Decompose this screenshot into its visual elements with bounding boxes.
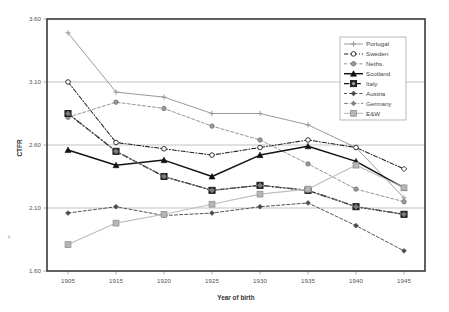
data-point-marker [161, 211, 167, 217]
data-point-marker [209, 201, 215, 207]
data-point-marker [210, 153, 215, 158]
data-point-marker [65, 242, 71, 248]
y-tick-label: 1.60 [29, 267, 42, 274]
data-point-marker [351, 110, 357, 116]
y-axis-title: CTFR [16, 139, 23, 156]
legend-label: E&W [366, 110, 380, 117]
data-point-marker [162, 106, 166, 110]
x-tick-label: 1925 [205, 277, 219, 284]
data-point-marker-inner [352, 83, 354, 85]
y-tick-label: 2.60 [29, 141, 42, 148]
data-point-marker [351, 52, 356, 57]
legend-label: Scotland [366, 70, 391, 77]
chart-container: 3.603.102.602.101.60 1905191519201925193… [0, 0, 449, 312]
legend-label: Italy [366, 80, 378, 87]
data-point-marker [114, 140, 119, 145]
data-point-marker [353, 162, 359, 168]
x-tick-label: 1905 [61, 277, 75, 284]
data-point-marker [354, 145, 359, 150]
legend-label: Austria [366, 90, 386, 97]
x-tick-label: 1920 [157, 277, 171, 284]
x-axis-title: Year of birth [217, 294, 254, 301]
data-point-marker [162, 146, 167, 151]
data-point-marker [258, 138, 262, 142]
legend-label: Portugal [366, 40, 389, 47]
data-point-marker [306, 162, 310, 166]
legend-label: Germany [366, 100, 392, 107]
data-point-marker [258, 145, 263, 150]
data-point-marker [113, 220, 119, 226]
x-tick-label: 1930 [253, 277, 267, 284]
data-point-marker [351, 62, 355, 66]
chart-legend[interactable]: PortugalSwedenNeths.ScotlandItalyAustria… [340, 37, 406, 120]
x-tick-label: 1945 [397, 277, 411, 284]
data-point-marker [114, 100, 118, 104]
data-point-marker [305, 186, 311, 192]
data-point-marker [402, 200, 406, 204]
data-point-marker [401, 185, 407, 191]
x-tick-label: 1935 [301, 277, 315, 284]
data-point-marker [354, 187, 358, 191]
data-point-marker [66, 80, 71, 85]
y-tick-label: 2.10 [29, 204, 42, 211]
data-point-marker [306, 138, 311, 143]
x-tick-label: 1940 [349, 277, 363, 284]
ctfr-line-chart: 3.603.102.602.101.60 1905191519201925193… [0, 0, 449, 312]
legend-label: Neths. [366, 60, 384, 67]
legend-label: Sweden [366, 50, 389, 57]
x-tick-label: 1915 [109, 277, 123, 284]
data-point-marker [257, 191, 263, 197]
data-point-marker [210, 124, 214, 128]
y-tick-label: 3.10 [29, 78, 42, 85]
y-tick-label: 3.60 [29, 15, 42, 22]
scan-artifact-speck [8, 236, 11, 239]
